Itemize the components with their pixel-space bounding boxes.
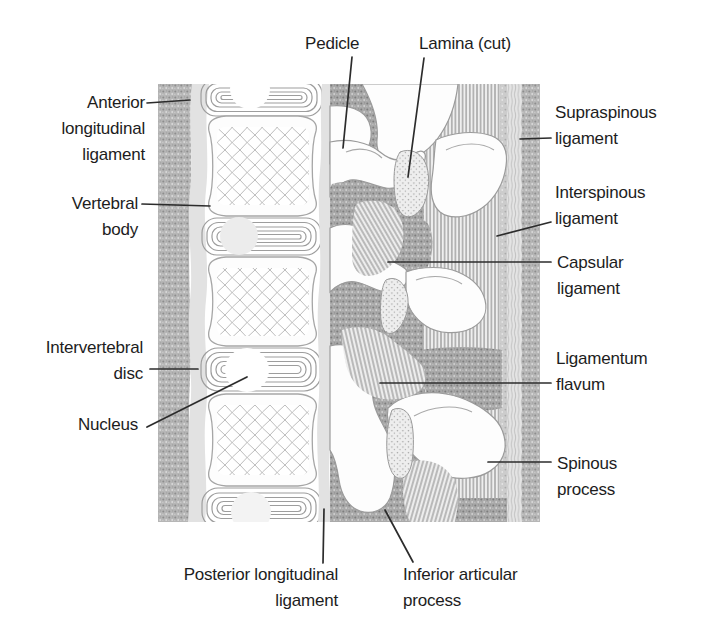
label-nucleus: Nucleus	[78, 412, 138, 438]
nucleus-4	[231, 492, 271, 532]
label-capsular-ligament: Capsular ligament	[557, 250, 623, 302]
nucleus-2	[220, 217, 258, 255]
vertebral-body-2-crosshatch	[217, 268, 309, 336]
intervertebral-disc-2	[202, 217, 321, 255]
supraspinous-ligament-band	[507, 84, 522, 522]
anterior-longitudinal-ligament-band	[188, 84, 209, 522]
label-supraspinous-ligament: Supraspinous ligament	[555, 100, 657, 152]
label-anterior-longitudinal-ligament: Anterior longitudinal ligament	[61, 90, 145, 168]
label-ligamentum-flavum: Ligamentum flavum	[556, 346, 648, 398]
intervertebral-disc-1	[201, 69, 322, 116]
label-spinous-process: Spinous process	[557, 451, 617, 503]
label-posterior-longitudinal-ligament: Posterior longitudinal ligament	[184, 562, 338, 614]
intervertebral-disc-4	[202, 488, 321, 532]
label-inferior-articular-process: Inferior articular process	[403, 562, 518, 614]
nucleus-1	[230, 69, 270, 109]
figure-canvas: Pedicle Lamina (cut) Anterior longitudin…	[0, 0, 708, 634]
vertebral-body-3-crosshatch	[217, 405, 309, 475]
posterior-longitudinal-ligament-leader-line	[323, 509, 324, 563]
vertebral-bodies	[209, 116, 317, 486]
vertebral-body-1-crosshatch	[217, 127, 309, 205]
posterior-outer-stipple-band	[522, 84, 540, 522]
label-intervertebral-disc: Intervertebral disc	[46, 335, 143, 387]
label-interspinous-ligament: Interspinous ligament	[555, 180, 645, 232]
intervertebral-disc-3	[201, 348, 321, 392]
label-lamina-cut: Lamina (cut)	[419, 31, 511, 57]
label-pedicle: Pedicle	[305, 31, 359, 57]
facet-strip-3	[387, 408, 414, 478]
supraspinous-ligament-leader-line	[520, 138, 551, 139]
label-vertebral-body: Vertebral body	[72, 191, 138, 243]
anterior-tissue-stipple-band	[158, 84, 193, 522]
